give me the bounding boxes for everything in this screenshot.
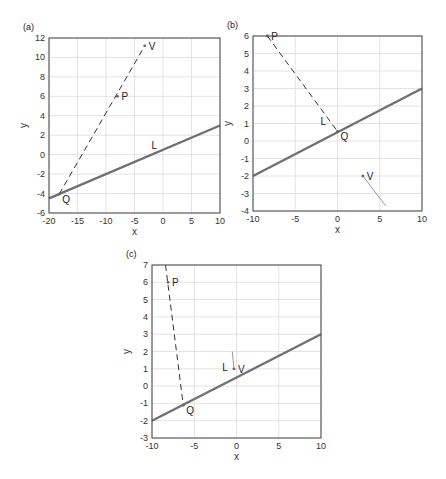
y-tick-label: 6: [244, 31, 249, 41]
x-axis-label: x: [132, 226, 137, 237]
x-tick-label: 0: [160, 216, 165, 226]
y-tick-label: 0: [143, 381, 148, 391]
point-label-v: V: [367, 171, 374, 182]
figure: VPLQ-20-15-10-50510-6-4-2024681012xy(a)P…: [0, 0, 446, 479]
y-tick-label: -2: [140, 416, 148, 426]
point-marker-q: [58, 193, 61, 196]
panel-label: (b): [227, 20, 238, 30]
x-axis-label: x: [335, 224, 340, 235]
x-tick-label: -5: [130, 216, 138, 226]
series-line-pq: [267, 36, 337, 131]
y-tick-label: -1: [241, 154, 249, 164]
point-marker-v: [361, 175, 364, 178]
x-tick-label: 0: [335, 214, 340, 224]
point-marker-q: [182, 404, 185, 407]
y-tick-label: 2: [40, 130, 45, 140]
series-line-pq: [59, 46, 145, 194]
point-label-q: Q: [341, 131, 349, 142]
y-tick-label: 3: [244, 84, 249, 94]
point-label-v: V: [238, 364, 245, 375]
panel-label: (c): [126, 249, 137, 259]
y-tick-label: 7: [143, 260, 148, 270]
y-tick-label: 1: [143, 364, 148, 374]
y-tick-label: -3: [140, 433, 148, 443]
y-tick-label: 4: [244, 66, 249, 76]
panel-c: PLVQ-10-50510-3-2-101234567xy(c): [121, 249, 326, 462]
y-tick-label: -4: [37, 189, 45, 199]
y-tick-label: 4: [143, 312, 148, 322]
y-tick-label: -2: [241, 171, 249, 181]
x-axis-label: x: [234, 451, 239, 462]
y-tick-label: -4: [241, 206, 249, 216]
y-tick-label: 3: [143, 329, 148, 339]
y-tick-label: 2: [244, 101, 249, 111]
x-tick-label: -5: [291, 214, 299, 224]
y-tick-label: 5: [244, 49, 249, 59]
y-tick-label: 12: [35, 33, 45, 43]
y-tick-label: -3: [241, 189, 249, 199]
x-tick-label: 10: [417, 214, 427, 224]
point-label-p: P: [121, 91, 128, 102]
point-marker-q: [336, 130, 339, 133]
y-tick-label: -6: [37, 208, 45, 218]
y-axis-label: y: [121, 349, 132, 354]
y-axis-label: y: [222, 121, 233, 126]
point-label-v: V: [149, 41, 156, 52]
point-label-q: Q: [186, 405, 194, 416]
point-label-p: P: [172, 277, 179, 288]
series-line-v-segment: [232, 352, 234, 369]
y-tick-label: 0: [244, 136, 249, 146]
x-tick-label: -5: [190, 441, 198, 451]
point-marker-p: [116, 95, 119, 98]
point-marker-p: [167, 281, 170, 284]
y-tick-label: 4: [40, 111, 45, 121]
point-marker-v: [233, 367, 236, 370]
point-label-l: L: [152, 140, 158, 151]
y-tick-label: 8: [40, 72, 45, 82]
point-label-q: Q: [62, 194, 70, 205]
x-tick-label: 10: [215, 216, 225, 226]
point-label-l: L: [222, 362, 228, 373]
panel-label: (a): [23, 22, 34, 32]
x-tick-label: -10: [99, 216, 112, 226]
x-tick-label: 5: [377, 214, 382, 224]
y-axis-label: y: [18, 123, 29, 128]
x-tick-label: 5: [276, 441, 281, 451]
x-tick-label: 10: [316, 441, 326, 451]
y-tick-label: 2: [143, 347, 148, 357]
x-tick-label: 5: [189, 216, 194, 226]
y-tick-label: 10: [35, 52, 45, 62]
panel-b: PLQV-10-50510-4-3-2-10123456xy(b): [222, 20, 427, 235]
x-tick-label: -15: [71, 216, 84, 226]
y-tick-label: 1: [244, 119, 249, 129]
y-tick-label: -1: [140, 398, 148, 408]
y-tick-label: 0: [40, 150, 45, 160]
panel-a: VPLQ-20-15-10-50510-6-4-2024681012xy(a): [18, 22, 225, 237]
point-marker-v: [143, 44, 146, 47]
y-tick-label: 6: [40, 91, 45, 101]
x-tick-label: 0: [234, 441, 239, 451]
y-tick-label: -2: [37, 169, 45, 179]
point-label-l: L: [321, 116, 327, 127]
y-tick-label: 5: [143, 295, 148, 305]
y-tick-label: 6: [143, 277, 148, 287]
